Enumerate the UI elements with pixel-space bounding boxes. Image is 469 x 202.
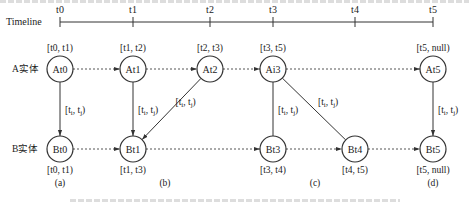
node-interval: [t3, t4) xyxy=(260,165,286,176)
timeline-label: Timeline xyxy=(6,16,42,27)
tick-label: t0 xyxy=(56,4,64,15)
node-interval: [t1, t2) xyxy=(120,43,146,54)
temporal-entity-diagram: Timeline t0t1t2t3t4t5 A实体 B实体 [ti, tj)[t… xyxy=(0,0,469,202)
node-Bt3: Bt3[t3, t4) xyxy=(260,136,286,176)
node-label: Bt3 xyxy=(266,144,280,155)
node-label: At1 xyxy=(126,64,141,75)
cropped-text-bottom xyxy=(70,199,400,202)
row-label-b: B实体 xyxy=(12,143,38,154)
node-At2: At2[t2, t3) xyxy=(197,43,223,82)
node-interval: [t2, t3) xyxy=(197,43,223,54)
node-At0: At0[t0, t1) xyxy=(47,43,73,82)
node-label: Bt4 xyxy=(348,144,362,155)
node-Bt4: Bt4[t4, t5) xyxy=(342,136,368,176)
panel-label: (b) xyxy=(159,178,170,189)
node-At5: At5[t5, null) xyxy=(416,43,449,82)
panel-label: (a) xyxy=(55,178,66,189)
timeline: Timeline t0t1t2t3t4t5 xyxy=(6,4,437,27)
entity-a-nodes: At0[t0, t1)At1[t1, t2)At2[t2, t3)Ai3[t3,… xyxy=(47,43,450,82)
node-label: Bt5 xyxy=(426,144,440,155)
relation-edge-label: [ti, tj) xyxy=(176,97,196,109)
node-interval: [t5, null) xyxy=(416,43,449,54)
node-Bt0: Bt0[t0, t1) xyxy=(47,136,73,176)
entity-b-nodes: Bt0[t0, t1)Bt1[t1, t3)Bt3[t3, t4)Bt4[t4,… xyxy=(47,136,450,176)
node-label: Bt0 xyxy=(53,144,67,155)
relation-edge-label: [ti, tj) xyxy=(65,105,85,117)
node-label: At0 xyxy=(53,64,68,75)
node-At1: At1[t1, t2) xyxy=(120,43,146,82)
tick-label: t5 xyxy=(429,4,437,15)
node-Ai3: Ai3[t3, t5) xyxy=(260,43,286,82)
temporal-succession-edges xyxy=(73,69,420,149)
tick-label: t3 xyxy=(269,4,277,15)
tick-label: t2 xyxy=(206,4,214,15)
node-interval: [t3, t5) xyxy=(260,43,286,54)
node-Bt5: Bt5[t5, null) xyxy=(416,136,449,176)
panel-label: (c) xyxy=(310,178,321,189)
panel-labels: (a)(b)(c)(d) xyxy=(55,178,439,189)
node-interval: [t5, null) xyxy=(416,165,449,176)
node-interval: [t1, t3) xyxy=(120,165,146,176)
tick-label: t4 xyxy=(351,4,359,15)
node-label: At5 xyxy=(426,64,441,75)
row-label-a: A实体 xyxy=(12,63,39,74)
node-interval: [t0, t1) xyxy=(47,165,73,176)
panel-label: (d) xyxy=(427,178,438,189)
node-label: Ai3 xyxy=(266,64,281,75)
node-label: Bt1 xyxy=(126,144,140,155)
tick-label: t1 xyxy=(129,4,137,15)
relation-edge-label: [ti, tj) xyxy=(438,105,458,117)
relation-edge-label: [ti, tj) xyxy=(278,105,298,117)
relation-edge-label: [ti, tj) xyxy=(318,97,338,109)
relation-edge-label: [ti, tj) xyxy=(138,105,158,117)
node-label: At2 xyxy=(203,64,218,75)
relationship-edges: [ti, tj)[ti, tj)[ti, tj)[ti, tj)[ti, tj)… xyxy=(60,78,458,140)
node-interval: [t4, t5) xyxy=(342,165,368,176)
node-Bt1: Bt1[t1, t3) xyxy=(120,136,146,176)
node-interval: [t0, t1) xyxy=(47,43,73,54)
